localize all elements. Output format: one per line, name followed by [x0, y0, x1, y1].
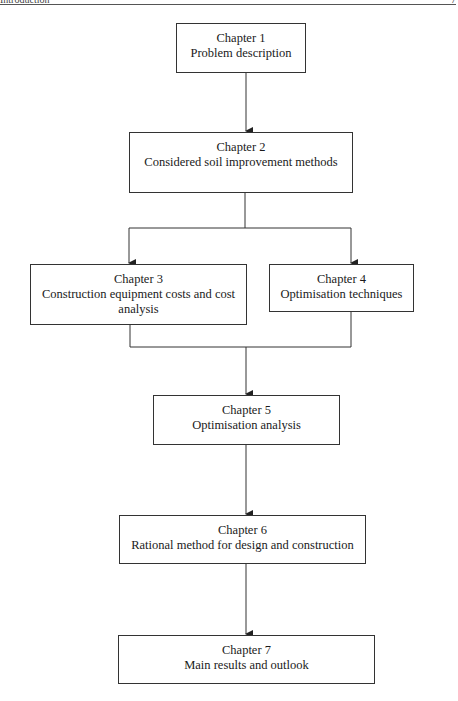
chapter-7-label: Chapter 7: [222, 643, 271, 658]
chapter-6-title: Rational method for design and construct…: [131, 538, 354, 553]
chapter-4-box: Chapter 4 Optimisation techniques: [269, 264, 414, 312]
chapter-5-title: Optimisation analysis: [192, 418, 301, 433]
chapter-3-title-line2: analysis: [118, 302, 158, 317]
chapter-2-title: Considered soil improvement methods: [144, 155, 337, 170]
chapter-3-title: Construction equipment costs and cost: [42, 287, 235, 302]
chapter-1-box: Chapter 1 Problem description: [176, 23, 306, 73]
chapter-3-box: Chapter 3 Construction equipment costs a…: [30, 264, 247, 325]
chapter-2-box: Chapter 2 Considered soil improvement me…: [129, 132, 353, 193]
chapter-3-label: Chapter 3: [114, 272, 163, 287]
chapter-7-box: Chapter 7 Main results and outlook: [118, 635, 375, 684]
chapter-6-label: Chapter 6: [218, 523, 267, 538]
chapter-5-box: Chapter 5 Optimisation analysis: [153, 395, 340, 445]
chapter-7-title: Main results and outlook: [184, 658, 309, 673]
flow-connectors: [0, 0, 458, 701]
chapter-4-label: Chapter 4: [317, 272, 366, 287]
chapter-1-label: Chapter 1: [217, 31, 266, 46]
chapter-4-title: Optimisation techniques: [281, 287, 403, 302]
chapter-5-label: Chapter 5: [222, 403, 271, 418]
chapter-6-box: Chapter 6 Rational method for design and…: [119, 515, 366, 564]
chapter-1-title: Problem description: [190, 46, 291, 61]
chapter-2-label: Chapter 2: [217, 140, 266, 155]
